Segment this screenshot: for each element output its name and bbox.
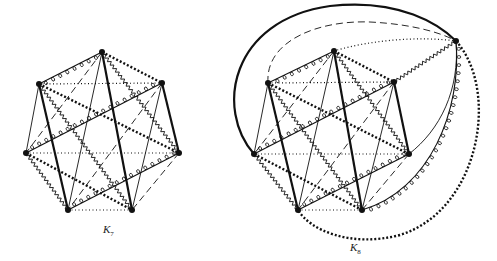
k8-label: K8 <box>350 241 361 256</box>
edge-loops-0-6 <box>39 52 102 84</box>
k7-label: K7 <box>103 223 114 238</box>
vertex-4 <box>65 207 71 213</box>
edge-dashed-0-5 <box>26 52 102 153</box>
edge-thin-1-3 <box>132 83 162 210</box>
vertex-1 <box>159 80 165 86</box>
vertex-3 <box>359 207 365 213</box>
k7-graph <box>23 49 182 213</box>
vertex-4 <box>295 207 301 213</box>
edge-thin-0-4 <box>68 52 102 210</box>
k8-graph <box>234 5 479 240</box>
edge-thick-0-3 <box>102 52 132 210</box>
edge-squares-6-2 <box>268 83 409 154</box>
edge-zigzag-1-7 <box>394 41 456 82</box>
edge-thin-6-5 <box>26 84 39 153</box>
edge-dotted-6-1 <box>268 82 394 83</box>
vertex-5 <box>23 150 29 156</box>
outer-curve-loops <box>362 41 457 210</box>
edge-loops-0-6 <box>268 51 334 83</box>
edge-dotted-6-1 <box>39 83 162 84</box>
outer-curve-thick-solid <box>234 5 456 154</box>
edge-squares-0-1 <box>102 52 162 83</box>
vertex-6 <box>265 80 271 86</box>
vertex-2 <box>406 151 412 157</box>
vertex-1 <box>391 79 397 85</box>
outer-curve-dotted <box>334 39 456 51</box>
vertex-0 <box>99 49 105 55</box>
vertex-5 <box>251 151 257 157</box>
vertex-0 <box>331 48 337 54</box>
outer-curve-dashed <box>268 22 456 83</box>
vertex-2 <box>176 150 182 156</box>
edge-squares-0-1 <box>334 51 394 82</box>
vertex-7 <box>453 38 459 44</box>
edge-thick-1-2 <box>394 82 409 154</box>
vertex-3 <box>129 207 135 213</box>
edge-squares-5-3 <box>26 153 132 210</box>
vertex-6 <box>36 81 42 87</box>
outer-curve-squares <box>298 41 479 239</box>
graph-canvas <box>0 0 497 261</box>
